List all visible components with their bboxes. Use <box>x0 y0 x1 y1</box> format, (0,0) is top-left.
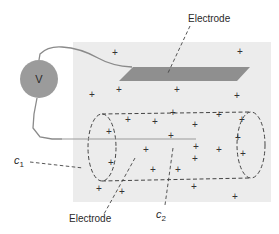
positive-charge-icon: + <box>237 46 243 57</box>
positive-charge-icon: + <box>234 90 240 101</box>
top-electrode-label: Electrode <box>188 13 231 24</box>
positive-charge-icon: + <box>143 144 149 155</box>
positive-charge-icon: + <box>108 157 114 168</box>
positive-charge-icon: + <box>191 181 197 192</box>
positive-charge-icon: + <box>216 109 222 120</box>
positive-charge-icon: + <box>235 132 241 143</box>
positive-charge-icon: + <box>96 183 102 194</box>
positive-charge-icon: + <box>125 114 131 125</box>
wire-to-inner-electrode <box>33 98 62 139</box>
positive-charge-icon: + <box>119 186 125 197</box>
bottom-electrode-label: Electrode <box>69 213 112 224</box>
positive-charge-icon: + <box>116 84 122 95</box>
positive-charge-icon: + <box>89 89 95 100</box>
positive-charge-icon: + <box>192 153 198 164</box>
electrode-diagram: V +++++++++++++++++++++++++++ Electrode … <box>0 0 279 234</box>
positive-charge-icon: + <box>192 119 198 130</box>
c2-label: c2 <box>156 208 167 223</box>
positive-charge-icon: + <box>152 116 158 127</box>
positive-charge-icon: + <box>106 126 112 137</box>
positive-charge-icon: + <box>168 130 174 141</box>
positive-charge-icon: + <box>240 148 246 159</box>
positive-charge-icon: + <box>216 144 222 155</box>
positive-charge-icon: + <box>150 164 156 175</box>
c1-label: c1 <box>14 154 25 169</box>
positive-charge-icon: + <box>112 47 118 58</box>
positive-charge-icon: + <box>170 107 176 118</box>
voltmeter-label: V <box>35 73 43 85</box>
positive-charge-icon: + <box>232 191 238 202</box>
top-electrode-plate <box>119 67 250 81</box>
positive-charge-icon: + <box>174 84 180 95</box>
positive-charge-icon: + <box>193 141 199 152</box>
positive-charge-icon: + <box>239 114 245 125</box>
positive-charge-icon: + <box>175 164 181 175</box>
